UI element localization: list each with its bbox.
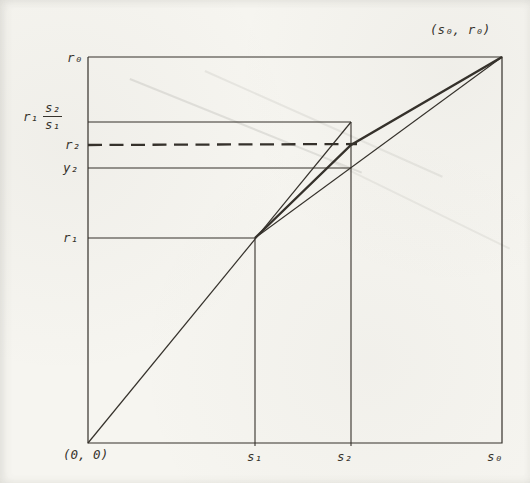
origin-point-label: (0, 0) (63, 447, 108, 462)
secant-line (255, 57, 502, 238)
scanned-figure-page: (s₀, r₀) (0, 0) r₀ r₁ s₂ s₁ r₂ y₂ r₁ s₁ … (0, 0, 530, 483)
x-axis-label-s2: s₂ (337, 449, 352, 464)
y-axis-label-r1s2-over-s1: r₁ s₂ s₁ (23, 101, 62, 133)
x-axis-label-s1: s₁ (247, 449, 262, 464)
origin-ray-line (88, 122, 351, 443)
axis-box (88, 57, 502, 443)
y-axis-label-r2: r₂ (54, 137, 80, 152)
fraction: s₂ s₁ (43, 101, 62, 133)
y-axis-label-y2: y₂ (52, 160, 78, 175)
fraction-prefix: r₁ (23, 109, 38, 124)
x-axis-label-s0: s₀ (487, 449, 502, 464)
y-axis-label-r1: r₁ (52, 230, 78, 245)
r2-dashed-line (88, 144, 357, 145)
figure-canvas (0, 0, 530, 483)
corner-point-label: (s₀, r₀) (430, 22, 490, 37)
y-axis-label-r0: r₀ (56, 50, 82, 65)
fraction-denominator: s₁ (43, 117, 62, 132)
fraction-numerator: s₂ (43, 101, 62, 117)
